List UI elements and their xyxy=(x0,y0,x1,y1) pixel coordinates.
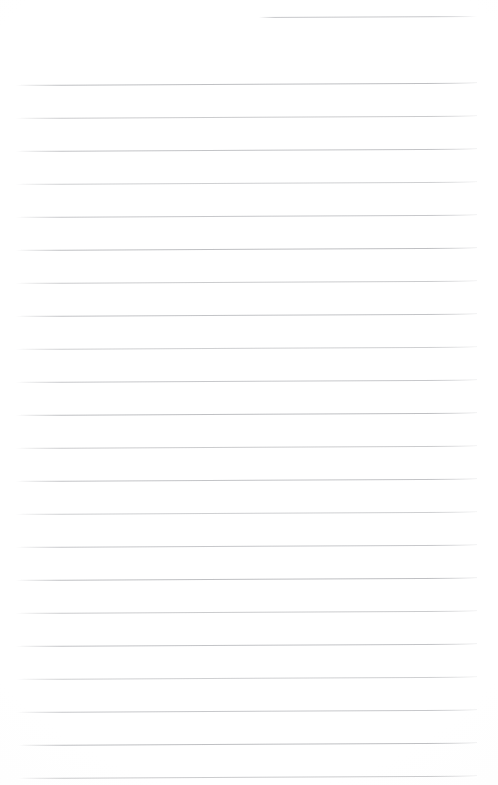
ruled-line xyxy=(16,83,477,86)
ruled-line-partial xyxy=(259,16,477,18)
ruled-line xyxy=(16,248,477,251)
ruled-line xyxy=(16,578,477,581)
ruled-line xyxy=(18,743,477,746)
ruled-line xyxy=(16,545,477,548)
ruled-line xyxy=(16,182,477,185)
ruled-line xyxy=(16,479,477,482)
ruled-line xyxy=(18,776,477,779)
ruled-line xyxy=(16,116,477,119)
ruled-line xyxy=(16,281,477,284)
ruled-line xyxy=(16,512,477,515)
ruled-line xyxy=(16,644,477,647)
ruled-line xyxy=(16,314,477,317)
ruled-lines-group xyxy=(0,0,498,785)
ruled-line xyxy=(16,149,477,152)
ruled-line xyxy=(16,380,477,383)
ruled-line xyxy=(16,215,477,218)
notebook-page xyxy=(0,0,498,785)
ruled-line xyxy=(16,347,477,350)
ruled-line xyxy=(17,677,477,680)
ruled-line xyxy=(17,710,477,713)
ruled-line xyxy=(16,413,477,416)
ruled-line xyxy=(16,611,477,614)
ruled-line xyxy=(16,446,477,449)
